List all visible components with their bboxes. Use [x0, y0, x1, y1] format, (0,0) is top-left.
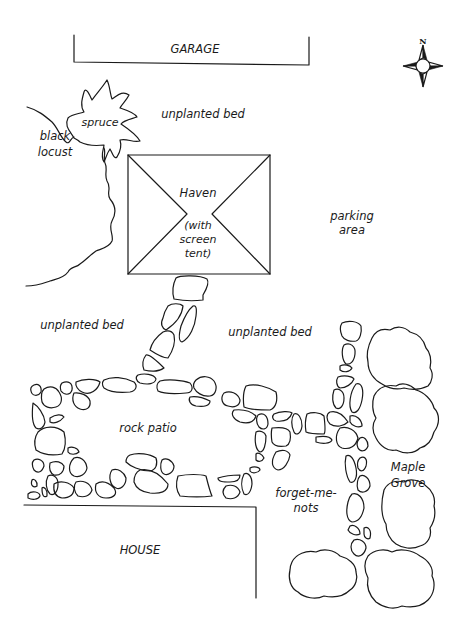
haven-note-line1: (with [184, 219, 212, 233]
parking-area-label-line1: parking [330, 209, 374, 223]
compass-rose-icon [403, 45, 443, 87]
haven-label: Haven [180, 186, 217, 200]
forget-me-nots-label-line2: nots [294, 501, 319, 515]
garden-map: GARAGE N spruce unplanted bed black locu… [0, 0, 468, 640]
stepping-stone-path [136, 276, 208, 384]
rock-patio-stones [28, 377, 302, 500]
parking-area-label-line2: area [339, 223, 365, 237]
haven-note-line2: screen [180, 233, 217, 247]
spruce-label: spruce [81, 116, 118, 130]
unplanted-bed-left-label: unplanted bed [40, 318, 124, 332]
compass-north-label: N [419, 34, 426, 48]
black-locust-label-line2: locust [38, 145, 72, 159]
house-label: HOUSE [120, 543, 161, 557]
unplanted-bed-top-label: unplanted bed [161, 107, 245, 121]
black-locust-label-line1: black [40, 129, 71, 143]
right-stone-column [305, 321, 370, 556]
unplanted-bed-right-label: unplanted bed [228, 325, 312, 339]
garage-label: GARAGE [171, 42, 220, 56]
forget-me-nots-label-line1: forget-me- [275, 486, 336, 500]
maple-grove-label-line2: Grove [391, 476, 426, 490]
rock-patio-label: rock patio [119, 421, 177, 435]
maple-grove-label-line1: Maple [391, 460, 426, 474]
haven-note-line3: tent) [185, 247, 212, 261]
